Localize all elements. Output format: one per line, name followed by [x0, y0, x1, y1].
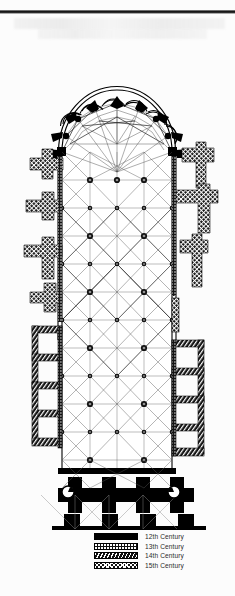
legend-swatch-15th-century [94, 562, 138, 569]
legend: 12th Century 13th Century 14th Century 1… [94, 532, 214, 570]
legend-item: 12th Century [94, 532, 214, 541]
legend-swatch-14th-century [94, 552, 138, 559]
legend-swatch-12th-century [94, 533, 138, 540]
legend-swatch-13th-century [94, 543, 138, 550]
legend-label: 12th Century [145, 532, 184, 541]
bleed-through-text-line-2 [38, 29, 207, 39]
legend-label: 13th Century [145, 542, 184, 551]
scanned-page: 12th Century 13th Century 14th Century 1… [0, 0, 235, 596]
legend-label: 15th Century [145, 561, 184, 570]
cathedral-floor-plan [0, 40, 235, 530]
legend-label: 14th Century [145, 551, 184, 560]
bleed-through-text-line-1 [14, 18, 225, 29]
page-rule [0, 10, 235, 14]
legend-item: 14th Century [94, 551, 214, 560]
legend-item: 15th Century [94, 561, 214, 570]
legend-item: 13th Century [94, 542, 214, 551]
